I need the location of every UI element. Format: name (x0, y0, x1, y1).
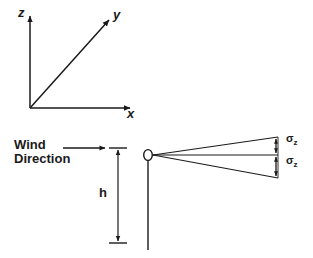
stack-height-dimension (109, 148, 127, 243)
source-circle-icon (144, 150, 153, 161)
y-axis-line (30, 20, 109, 108)
plume-dispersion-diagram: z y x Wind Direction h σz σz (0, 0, 313, 258)
sigma-z-upper-symbol: σ (286, 132, 294, 144)
sigma-z-lower-subscript: z (294, 160, 298, 169)
diagram-vector-layer (0, 0, 313, 258)
plume-cone-group (153, 137, 278, 178)
z-axis-label: z (18, 6, 25, 20)
sigma-z-upper-subscript: z (294, 138, 298, 147)
plume-lower-edge (153, 155, 278, 178)
plume-upper-edge (153, 137, 278, 155)
wind-direction-label: Wind Direction (14, 138, 70, 166)
coordinate-axes-group (30, 16, 130, 108)
sigma-z-lower-label: σz (286, 155, 298, 170)
x-axis-label: x (127, 107, 134, 121)
stack-height-label: h (99, 186, 107, 200)
y-axis-label: y (113, 8, 120, 22)
stack-group (144, 150, 153, 250)
sigma-z-lower-symbol: σ (286, 154, 294, 166)
sigma-z-upper-label: σz (286, 133, 298, 148)
